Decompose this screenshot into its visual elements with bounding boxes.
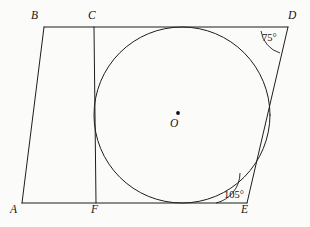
point-label-a: A — [10, 204, 17, 216]
point-label-c: C — [88, 10, 96, 22]
point-label-e: E — [241, 204, 248, 216]
right-side-de — [247, 27, 288, 203]
inscribed-circle — [94, 27, 270, 203]
angle-label-d: 75° — [262, 33, 277, 44]
point-label-f: F — [91, 204, 98, 216]
point-label-d: D — [288, 10, 296, 22]
point-label-o: O — [170, 118, 178, 130]
geometry-figure: B C D A F E O 75° 105° — [0, 0, 310, 227]
point-label-b: B — [31, 10, 38, 22]
angle-label-e: 105° — [224, 190, 244, 201]
circle-center-dot — [176, 111, 180, 115]
left-side-ab — [22, 27, 44, 203]
